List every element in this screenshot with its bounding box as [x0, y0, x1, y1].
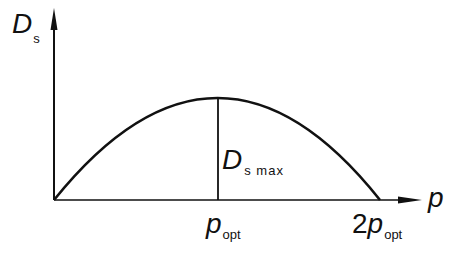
x-axis-arrowhead [398, 197, 422, 204]
x-tick-2popt: 2popt [352, 210, 401, 238]
x-tick-2popt-main: p [368, 208, 384, 239]
y-axis-label-main: D [12, 8, 32, 39]
peak-label-main: D [222, 144, 242, 175]
y-axis-arrowhead [51, 8, 58, 30]
y-axis-label-sub: s [33, 31, 40, 46]
y-axis-label: Ds [12, 10, 39, 38]
x-tick-popt-sub: opt [223, 227, 241, 242]
x-tick-2popt-sub: opt [384, 227, 402, 242]
x-tick-popt: popt [206, 210, 240, 238]
peak-label-sub: s max [244, 163, 284, 178]
parabola-curve [54, 98, 380, 200]
peak-label: Ds max [222, 146, 282, 174]
x-tick-popt-main: p [206, 208, 222, 239]
x-axis-label: p [428, 184, 444, 212]
x-tick-2popt-prefix: 2 [352, 208, 368, 239]
